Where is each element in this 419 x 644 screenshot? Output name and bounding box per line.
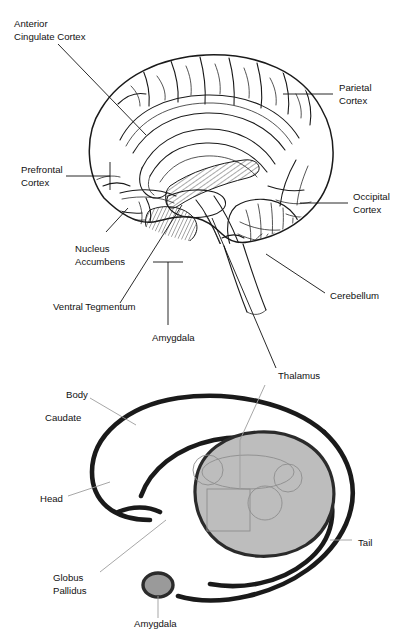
- label-parietal-cortex-line2: Cortex: [339, 95, 367, 106]
- label-occipital-cortex-line1: Occipital: [353, 191, 390, 202]
- label-head: Head: [40, 493, 63, 504]
- leader-head: [68, 482, 110, 496]
- putamen-blob: [195, 432, 334, 556]
- label-anterior-cingulate-cortex-line1: Anterior: [14, 18, 48, 29]
- label-occipital-cortex-line2: Cortex: [353, 204, 381, 215]
- label-cerebellum: Cerebellum: [330, 290, 379, 301]
- caudate-hook: [118, 508, 160, 513]
- label-body: Body: [66, 389, 88, 400]
- amygdala-oval: [143, 573, 173, 597]
- label-prefrontal-cortex-line1: Prefrontal: [21, 164, 63, 175]
- label-globus-pallidus-line1: Globus: [53, 572, 84, 583]
- label-nucleus-accumbens-line2: Accumbens: [75, 256, 125, 267]
- brain-anatomy-figure: Anterior Cingulate Cortex Prefrontal Cor…: [0, 0, 419, 644]
- cerebrum-outline: [89, 55, 333, 243]
- label-amygdala-lower: Amygdala: [134, 618, 177, 629]
- leader-cerebellum: [266, 254, 325, 293]
- leader-body: [90, 398, 136, 425]
- label-globus-pallidus-line2: Pallidus: [53, 585, 87, 596]
- label-parietal-cortex-line1: Parietal: [339, 82, 372, 93]
- label-anterior-cingulate-cortex-line2: Cingulate Cortex: [14, 31, 86, 42]
- label-thalamus: Thalamus: [278, 370, 320, 381]
- label-nucleus-accumbens-line1: Nucleus: [75, 243, 110, 254]
- basal-ganglia-drawing: [92, 396, 353, 601]
- label-tail: Tail: [358, 537, 372, 548]
- leader-globus-pallidus: [100, 520, 166, 572]
- figure-canvas: Anterior Cingulate Cortex Prefrontal Cor…: [0, 0, 419, 644]
- label-caudate: Caudate: [45, 412, 81, 423]
- label-ventral-tegmentum: Ventral Tegmentum: [53, 301, 135, 312]
- brainstem-medulla: [224, 246, 247, 312]
- label-amygdala-sagittal: Amygdala: [152, 332, 195, 343]
- leader-nucleus-accumbens: [106, 208, 128, 232]
- label-prefrontal-cortex-line2: Cortex: [21, 177, 49, 188]
